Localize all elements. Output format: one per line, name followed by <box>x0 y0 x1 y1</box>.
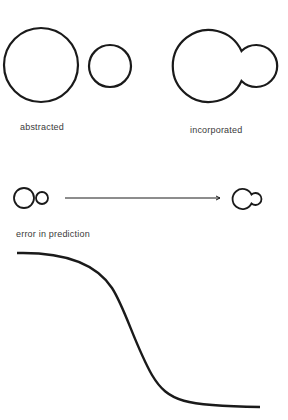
mini-merged-shape <box>233 189 262 209</box>
label-incorporated: incorporated <box>190 125 242 135</box>
mini-small-circle <box>36 192 48 204</box>
large-circle-abstracted <box>4 28 78 102</box>
error-curve <box>17 253 260 407</box>
small-circle-abstracted <box>89 45 131 87</box>
mini-large-circle <box>14 188 34 208</box>
diagram-canvas <box>0 0 288 420</box>
merged-shape-incorporated <box>173 30 277 102</box>
label-error-in-prediction: error in prediction <box>16 229 90 239</box>
label-abstracted: abstracted <box>20 122 64 132</box>
